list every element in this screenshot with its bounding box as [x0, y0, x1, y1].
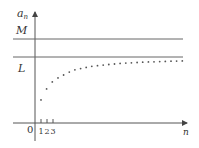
sequence-point [91, 65, 93, 67]
sequence-point [114, 63, 116, 65]
y-axis-label: an [17, 7, 29, 21]
sequence-point [80, 68, 82, 70]
sequence-point [125, 62, 127, 64]
sequence-point [153, 61, 155, 63]
x-axis-label: n [183, 127, 189, 137]
sequence-point [40, 99, 42, 101]
x-tick-label-1: 1 [39, 127, 44, 136]
sequence-point [159, 61, 161, 63]
sequence-point [102, 64, 104, 66]
limit-label: L [17, 62, 25, 75]
sequence-point [181, 60, 183, 62]
sequence-point [164, 61, 166, 63]
sequence-point [131, 62, 133, 64]
sequence-point [108, 64, 110, 66]
origin-label: 0 [27, 124, 33, 135]
sequence-point [85, 67, 87, 69]
x-tick-label-2: 2 [45, 127, 50, 136]
sequence-point [176, 60, 178, 62]
sequence-point [68, 71, 70, 73]
sequence-point [74, 69, 76, 71]
sequence-point [119, 63, 121, 65]
sequence-point [63, 74, 65, 76]
sequence-point [46, 88, 48, 90]
sequence-point [97, 65, 99, 67]
sequence-point [57, 77, 59, 79]
x-ticks [41, 119, 53, 123]
x-tick-label-3: 3 [51, 127, 56, 136]
sequence-points [40, 60, 183, 101]
sequence-diagram: an M L 0 1 2 3 n [0, 0, 199, 148]
upper-bound-label: M [15, 24, 28, 37]
sequence-point [51, 81, 53, 83]
sequence-point [170, 60, 172, 62]
sequence-point [136, 62, 138, 64]
sequence-point [148, 61, 150, 63]
sequence-point [142, 61, 144, 63]
